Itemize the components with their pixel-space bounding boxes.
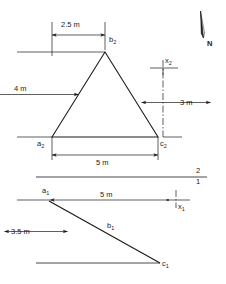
axis-label-x2: x2 <box>165 57 172 65</box>
dimension-label-3-5m: 3.5 m <box>11 228 30 236</box>
north-arrow-label: N <box>207 40 212 48</box>
folding-line-label-2: 2 <box>196 167 200 175</box>
vertex-label-a2: a2 <box>37 140 44 148</box>
dimension-5m-base <box>52 137 158 160</box>
vertex-label-b2: b2 <box>109 36 116 44</box>
vertex-label-c2: c2 <box>160 140 167 148</box>
vertex-label-a1: a1 <box>42 187 49 195</box>
dimension-label-4m: 4 m <box>14 85 27 93</box>
axis-x2 <box>150 60 178 77</box>
engineering-drawing-sheet: 2.5 m 4 m 3 m 5 m 5 m 3.5 m b2 a2 c2 x2 … <box>0 0 226 284</box>
dimension-label-5m-base: 5 m <box>96 159 109 167</box>
north-arrow-icon <box>201 11 205 38</box>
front-view-group <box>5 190 191 263</box>
axis-label-x1: x1 <box>178 203 185 211</box>
folding-line-label-1: 1 <box>196 178 200 186</box>
vertex-label-c1: c1 <box>162 260 169 268</box>
line-a1c1 <box>49 201 160 263</box>
dimension-label-5m-front: 5 m <box>100 191 113 199</box>
top-view-group <box>0 22 211 160</box>
dimension-4m <box>0 52 105 137</box>
dimension-label-2-5m: 2.5 m <box>61 21 80 29</box>
vertex-label-b1: b1 <box>107 222 114 230</box>
dimension-label-3m: 3 m <box>180 99 193 107</box>
